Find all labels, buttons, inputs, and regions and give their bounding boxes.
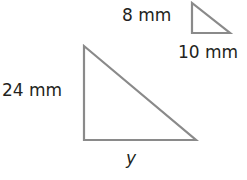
large-vertical-label: 24 mm	[2, 80, 62, 100]
small-horizontal-label: 10 mm	[178, 42, 238, 62]
small-vertical-label: 8 mm	[122, 5, 171, 25]
small-triangle	[192, 3, 230, 33]
similar-triangles-diagram: 8 mm 10 mm 24 mm y	[0, 0, 247, 180]
large-horizontal-label: y	[126, 148, 136, 168]
